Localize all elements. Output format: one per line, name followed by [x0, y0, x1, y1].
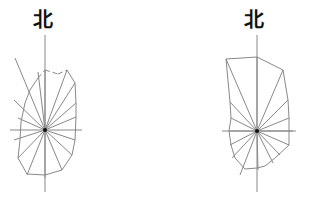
direction-ray — [232, 131, 257, 158]
direction-ray — [257, 131, 289, 145]
frequency-outline — [226, 57, 257, 59]
frequency-outline — [288, 100, 289, 118]
direction-ray — [257, 100, 288, 131]
direction-ray — [230, 131, 257, 145]
frequency-outline — [230, 102, 231, 118]
frequency-outline — [226, 59, 230, 102]
direction-ray — [257, 131, 273, 163]
frequency-outline — [283, 70, 288, 100]
frequency-outline — [229, 118, 231, 131]
frequency-outline — [265, 158, 275, 166]
frequency-outline — [245, 168, 257, 169]
center-point — [255, 129, 259, 133]
north-label-right: 北 — [244, 10, 264, 30]
direction-ray — [257, 131, 280, 155]
direction-ray — [231, 118, 257, 131]
frequency-outline — [257, 57, 283, 70]
frequency-outline — [235, 158, 245, 169]
direction-ray — [230, 102, 257, 131]
frequency-outline — [231, 145, 235, 158]
frequency-outline — [229, 131, 231, 145]
north-label-left: 北 — [33, 10, 53, 30]
